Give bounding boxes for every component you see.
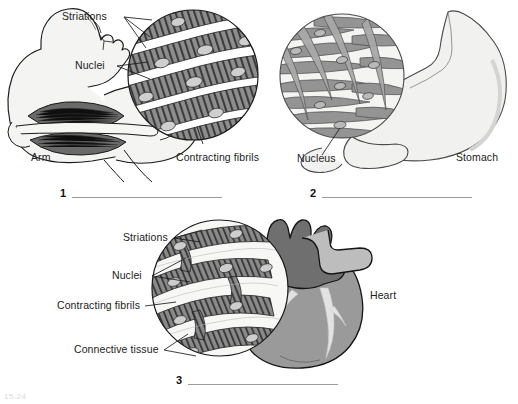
label-arm: Arm [31,152,51,163]
label-connective-tissue-panel-3: Connective tissue [74,344,159,355]
label-heart: Heart [370,290,396,301]
answer-line-1[interactable] [72,197,222,198]
label-contracting-fibrils-panel-1: Contracting fibrils [176,152,259,163]
label-striations-panel-1: Striations [62,11,107,22]
page-footer-text: 15-24 [4,392,26,401]
label-nuclei-panel-3: Nuclei [112,270,142,281]
item-number-1: 1 [60,187,66,199]
panel-1-skeletal-muscle: Striations Nuclei Contracting fibrils Ar… [0,0,262,182]
answer-line-3[interactable] [188,384,338,385]
label-contracting-fibrils-panel-3: Contracting fibrils [57,300,140,311]
panel-3-cardiac-muscle: Striations Nuclei Contracting fibrils Co… [40,210,440,370]
item-number-2: 2 [310,187,316,199]
muscle-tissue-figure: Striations Nuclei Contracting fibrils Ar… [0,0,518,404]
label-nuclei-panel-1: Nuclei [75,60,105,71]
panel-2-smooth-muscle: Nucleus Stomach [256,0,518,182]
label-striations-panel-3: Striations [123,232,168,243]
item-number-3: 3 [176,374,182,386]
label-stomach: Stomach [456,152,498,163]
answer-line-2[interactable] [322,197,472,198]
label-nucleus-panel-2: Nucleus [297,153,336,164]
